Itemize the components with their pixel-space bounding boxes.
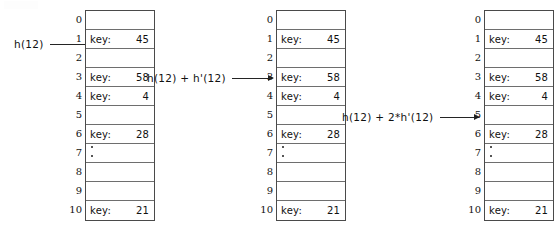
slot-key-value: 28 <box>327 125 340 144</box>
slot-key-value: 28 <box>136 125 149 144</box>
index-cell: 2 <box>66 48 82 67</box>
index-cell: 8 <box>66 162 82 181</box>
index-cell: 10 <box>465 200 481 219</box>
index-cell: 0 <box>465 10 481 29</box>
index-cell: 8 <box>257 162 273 181</box>
table-row: key: 4 <box>277 87 345 106</box>
table-row-ellipsis <box>485 144 553 163</box>
table-row <box>485 106 553 125</box>
index-cell: 9 <box>257 181 273 200</box>
table-row: key: 21 <box>277 201 345 220</box>
ellipsis-dot-icon <box>282 155 284 157</box>
index-cell: 6 <box>257 124 273 143</box>
table-row: key: 45 <box>485 30 553 49</box>
table-row: key: 58 <box>277 68 345 87</box>
slot-key-value: 21 <box>136 201 149 220</box>
index-cell: 3 <box>66 67 82 86</box>
slot-key-label: key: <box>90 125 111 144</box>
table-row <box>485 182 553 201</box>
probe-1-text: h(12) <box>14 38 44 50</box>
table-row <box>485 163 553 182</box>
slot-key-label: key: <box>90 201 111 220</box>
index-cell: 0 <box>257 10 273 29</box>
table-row: key: 58 <box>86 68 154 87</box>
slot-key-label: key: <box>90 87 111 106</box>
table-row-ellipsis <box>277 144 345 163</box>
index-cell: 5 <box>257 105 273 124</box>
table-row: key: 4 <box>86 87 154 106</box>
index-cell: 7 <box>257 143 273 162</box>
table-row <box>277 49 345 68</box>
index-cell: 8 <box>465 162 481 181</box>
slot-key-label: key: <box>90 30 111 49</box>
ellipsis-dot-icon <box>282 146 284 148</box>
index-cell: 7 <box>66 143 82 162</box>
slot-key-value: 4 <box>333 87 340 106</box>
table-row: key: 21 <box>86 201 154 220</box>
slot-key-value: 4 <box>142 87 149 106</box>
slot-key-value: 58 <box>535 68 548 87</box>
slot-key-value: 45 <box>136 30 149 49</box>
slot-key-value: 45 <box>327 30 340 49</box>
index-cell: 4 <box>465 86 481 105</box>
table-row <box>277 182 345 201</box>
slot-key-label: key: <box>281 125 302 144</box>
table-row: key: 21 <box>485 201 553 220</box>
index-cell: 5 <box>66 105 82 124</box>
index-cell: 3 <box>465 67 481 86</box>
probe-3-text: h(12) + 2*h'(12) <box>342 111 434 123</box>
index-cell: 5 <box>465 105 481 124</box>
ellipsis-dot-icon <box>490 155 492 157</box>
table-row <box>86 106 154 125</box>
slot-key-value: 45 <box>535 30 548 49</box>
index-column-1: 0 1 2 3 4 5 6 7 8 9 10 <box>66 10 85 219</box>
slot-key-label: key: <box>281 30 302 49</box>
table-row: key: 28 <box>86 125 154 144</box>
slot-key-value: 21 <box>327 201 340 220</box>
table-row <box>277 163 345 182</box>
slot-key-label: key: <box>489 125 510 144</box>
index-cell: 7 <box>465 143 481 162</box>
slot-key-label: key: <box>90 68 111 87</box>
index-cell: 10 <box>257 200 273 219</box>
index-cell: 4 <box>257 86 273 105</box>
slot-key-label: key: <box>489 201 510 220</box>
table-row <box>277 106 345 125</box>
index-cell: 4 <box>66 86 82 105</box>
index-cell: 0 <box>66 10 82 29</box>
ellipsis-dot-icon <box>91 146 93 148</box>
slot-key-label: key: <box>281 87 302 106</box>
table-row-ellipsis <box>86 144 154 163</box>
slot-key-label: key: <box>489 30 510 49</box>
table-row <box>485 11 553 30</box>
index-cell: 9 <box>465 181 481 200</box>
slot-key-value: 28 <box>535 125 548 144</box>
table-row: key: 28 <box>277 125 345 144</box>
table-row: key: 4 <box>485 87 553 106</box>
index-cell: 9 <box>66 181 82 200</box>
slot-column-3: key: 45 key: 58 key: 4 key: 28 <box>484 10 554 221</box>
slot-key-value: 58 <box>327 68 340 87</box>
index-cell: 1 <box>257 29 273 48</box>
table-row <box>86 11 154 30</box>
hash-table-step-3: 0 1 2 3 4 5 6 7 8 9 10 key: 45 key: 58 k… <box>465 10 554 221</box>
ellipsis-dot-icon <box>490 146 492 148</box>
table-row: key: 45 <box>277 30 345 49</box>
slot-key-label: key: <box>281 68 302 87</box>
table-row <box>277 11 345 30</box>
probe-2-text: h(12) + h'(12) <box>147 72 226 84</box>
probe-label-2: h(12) + h'(12) <box>147 70 274 86</box>
index-cell: 1 <box>465 29 481 48</box>
probe-label-3: h(12) + 2*h'(12) <box>342 109 480 125</box>
table-row <box>86 49 154 68</box>
slot-key-value: 4 <box>541 87 548 106</box>
hash-table-step-2: 0 1 2 3 4 5 6 7 8 9 10 key: 45 key: 58 k… <box>257 10 346 221</box>
table-row <box>86 182 154 201</box>
index-cell: 6 <box>66 124 82 143</box>
index-cell: 1 <box>66 29 82 48</box>
ellipsis-dot-icon <box>91 155 93 157</box>
slot-column-1: key: 45 key: 58 key: 4 key: 28 <box>85 10 155 221</box>
index-cell: 10 <box>66 200 82 219</box>
slot-key-label: key: <box>281 201 302 220</box>
table-row: key: 58 <box>485 68 553 87</box>
